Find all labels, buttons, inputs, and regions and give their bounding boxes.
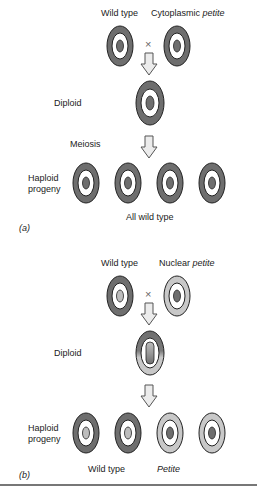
label-haploid-progeny-b2: progeny	[28, 434, 61, 445]
cell-wild-type-parent-a	[106, 25, 134, 67]
cross-symbol-a: ×	[145, 39, 151, 50]
label-all-wild-type: All wild type	[126, 212, 174, 223]
cell-cytoplasmic-petite-parent	[163, 25, 191, 67]
bottom-divider	[0, 484, 257, 486]
panel-tag-a: (a)	[19, 223, 30, 234]
cell-wild-type-parent-b	[106, 275, 134, 317]
cell-progeny-a-3	[156, 162, 184, 204]
label-wild-type-result: Wild type	[88, 464, 125, 475]
label-haploid-progeny-a2: progeny	[28, 184, 61, 195]
label-haploid-progeny-a1: Haploid	[28, 173, 59, 184]
cell-progeny-a-4	[198, 162, 226, 204]
label-wild-type-a: Wild type	[101, 8, 138, 19]
label-cytoplasmic-petite: Cytoplasmic petite	[151, 8, 225, 19]
label-diploid-a: Diploid	[54, 98, 82, 109]
cell-progeny-b-petite-2	[198, 412, 226, 454]
label-diploid-b: Diploid	[54, 348, 82, 359]
cell-nuclear-petite-parent	[163, 275, 191, 317]
cross-symbol-b: ×	[145, 289, 151, 300]
cell-progeny-b-petite-1	[156, 412, 184, 454]
label-nuclear-petite: Nuclear petite	[159, 258, 215, 269]
arrow-down-icon	[140, 52, 158, 76]
arrow-down-icon	[140, 302, 158, 326]
arrow-down-icon	[140, 384, 158, 408]
panel-tag-b: (b)	[19, 470, 30, 481]
cell-diploid-b	[135, 330, 165, 376]
cell-progeny-a-1	[72, 162, 100, 204]
label-haploid-progeny-b1: Haploid	[28, 423, 59, 434]
cell-progeny-b-wild-2	[114, 412, 142, 454]
cell-diploid-a	[135, 80, 165, 126]
cell-progeny-a-2	[114, 162, 142, 204]
arrow-down-icon	[140, 135, 158, 159]
label-meiosis: Meiosis	[70, 139, 101, 150]
label-wild-type-b: Wild type	[101, 258, 138, 269]
cell-progeny-b-wild-1	[72, 412, 100, 454]
label-petite-result: Petite	[157, 464, 180, 475]
